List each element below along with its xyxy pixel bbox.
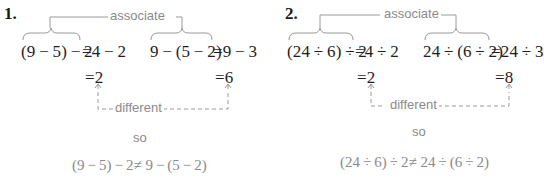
conclusion: (24 ÷ 6) ÷ 2≠ 24 ÷ (6 ÷ 2)	[340, 154, 489, 171]
different-label: different	[388, 97, 439, 112]
right-result: =6	[215, 68, 234, 88]
right-expression: 9 − (5 − 2)	[150, 42, 222, 62]
left-rhs: =4 ÷ 2	[355, 42, 399, 62]
right-rhs: =9 − 3	[213, 42, 257, 62]
so-label: so	[412, 124, 426, 139]
left-brace-2	[289, 28, 353, 40]
left-result: =2	[85, 68, 104, 88]
different-label: different	[113, 100, 164, 115]
conclusion: (9 − 5) − 2≠ 9 − (5 − 2)	[72, 157, 207, 174]
right-brace-2	[425, 28, 489, 40]
problem-number: 1.	[4, 4, 17, 24]
problem-number: 2.	[285, 4, 298, 24]
right-brace-1	[151, 28, 212, 40]
so-label: so	[133, 130, 147, 145]
right-rhs: =24 ÷ 3	[491, 42, 544, 62]
associate-label: associate	[382, 6, 441, 21]
right-result: =8	[495, 68, 514, 88]
left-result: =2	[357, 68, 376, 88]
left-brace-1	[23, 28, 80, 40]
left-rhs: =4 − 2	[82, 42, 126, 62]
associate-label: associate	[108, 8, 167, 23]
